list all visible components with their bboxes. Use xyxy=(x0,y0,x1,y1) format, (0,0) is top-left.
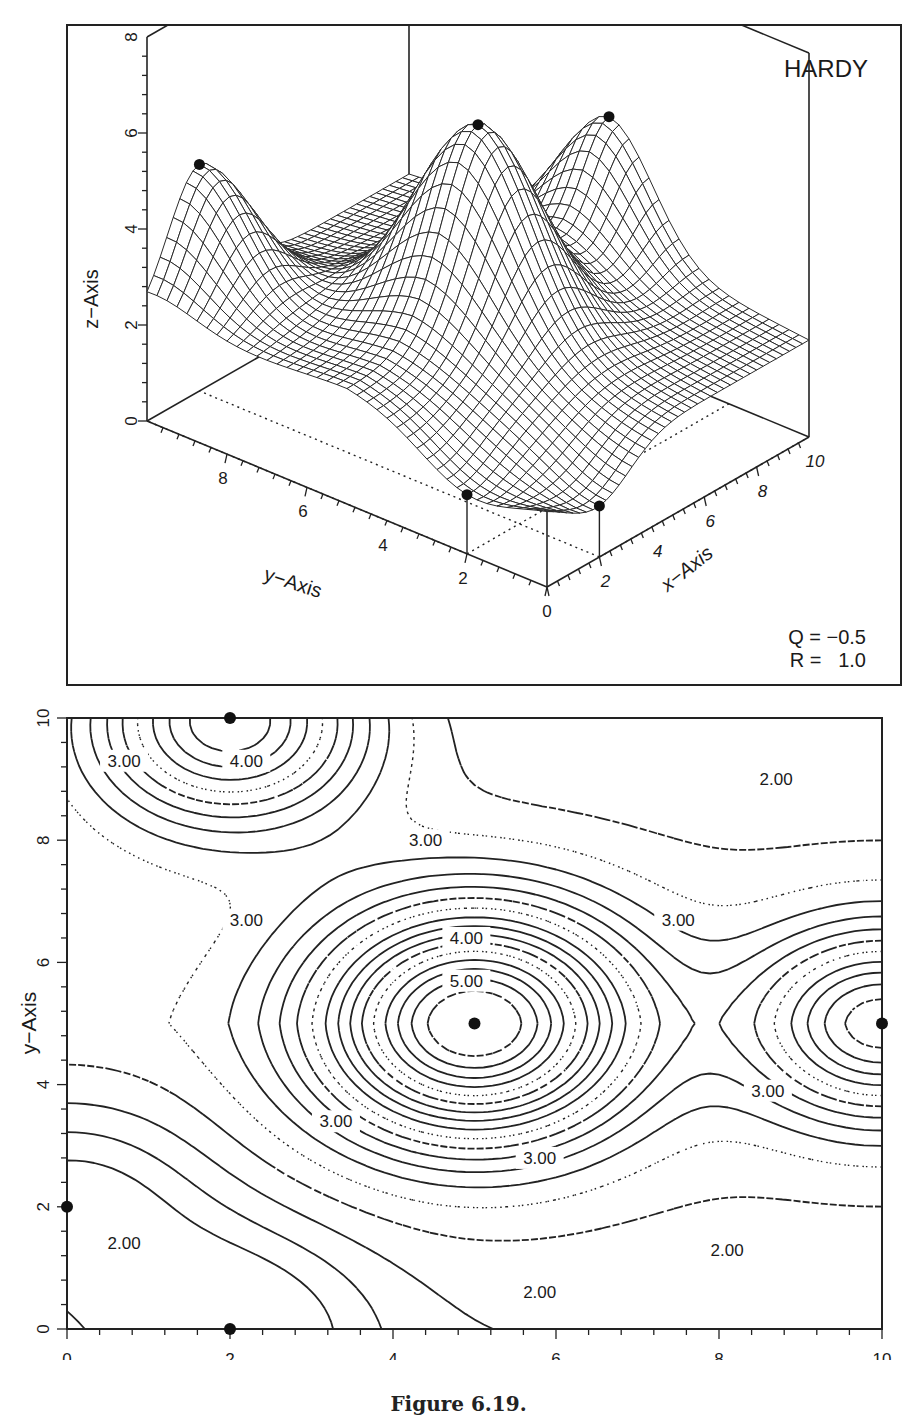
data-point-marker xyxy=(473,119,484,130)
contour-label: 4.00 xyxy=(450,929,483,948)
data-point-marker xyxy=(462,489,473,500)
surface-mesh xyxy=(147,117,809,514)
svg-text:8: 8 xyxy=(758,482,768,501)
contour-line-2 xyxy=(67,1103,493,1329)
y-tick-label: 8 xyxy=(34,835,53,844)
svg-text:2: 2 xyxy=(458,569,467,588)
x-axis-label: x−Axis xyxy=(656,542,717,597)
data-point-marker xyxy=(194,159,205,170)
contour-label: 3.00 xyxy=(409,831,442,850)
data-points xyxy=(61,712,888,1335)
svg-text:10: 10 xyxy=(806,452,825,471)
svg-text:6: 6 xyxy=(705,512,715,531)
y-tick-label: 4 xyxy=(34,1080,53,1089)
axis-ticks: 02468100246810 xyxy=(34,709,891,1360)
data-point-marker xyxy=(224,712,236,724)
y-tick-label: 0 xyxy=(34,1324,53,1333)
contour-label: 3.00 xyxy=(523,1149,556,1168)
y-tick-label: 10 xyxy=(34,709,53,728)
q-parameter-label: Q = −0.5 xyxy=(788,626,866,648)
svg-text:4: 4 xyxy=(653,542,662,561)
contour-line-4.75 xyxy=(362,943,882,1104)
x-tick-label: 10 xyxy=(873,1350,892,1360)
contour-label: 3.00 xyxy=(230,911,263,930)
contour-plot: 02468100246810 2.003.004.003.003.003.004… xyxy=(0,700,917,1360)
y-tick-label: 2 xyxy=(34,1202,53,1211)
x-tick-label: 0 xyxy=(62,1350,71,1360)
contour-label: 2.00 xyxy=(108,1234,141,1253)
y-tick-label: 6 xyxy=(34,958,53,967)
contour-label: 2.00 xyxy=(760,770,793,789)
contour-label: 2.00 xyxy=(523,1283,556,1302)
plot-title: HARDY xyxy=(784,55,868,82)
contour-label: 3.00 xyxy=(751,1082,784,1101)
svg-text:8: 8 xyxy=(218,469,227,488)
svg-text:2: 2 xyxy=(122,320,141,329)
x-tick-label: 2 xyxy=(225,1350,234,1360)
data-point-marker xyxy=(594,500,605,511)
y-axis-label: y−Axis xyxy=(17,992,40,1054)
contour-label: 4.00 xyxy=(230,752,263,771)
svg-text:6: 6 xyxy=(298,502,307,521)
svg-text:6: 6 xyxy=(122,128,141,137)
data-point-marker xyxy=(469,1018,481,1030)
x-tick-label: 4 xyxy=(388,1350,397,1360)
r-parameter-label: R = 1.0 xyxy=(790,649,866,671)
contour-label: 3.00 xyxy=(319,1112,352,1131)
data-point-marker xyxy=(876,1018,888,1030)
svg-text:4: 4 xyxy=(122,224,141,233)
data-point-marker xyxy=(61,1201,73,1213)
svg-text:8: 8 xyxy=(122,32,141,41)
svg-text:2: 2 xyxy=(600,572,611,591)
x-tick-label: 6 xyxy=(551,1350,560,1360)
svg-text:0: 0 xyxy=(542,602,551,621)
data-point-marker xyxy=(224,1323,236,1335)
svg-text:0: 0 xyxy=(122,416,141,425)
contour-label: 5.00 xyxy=(450,972,483,991)
z-axis-label: z−Axis xyxy=(80,269,102,328)
surface-plot-3d: HARDY 0246824680246810 z−Axis y−Axis x−A… xyxy=(66,24,902,686)
x-tick-label: 8 xyxy=(714,1350,723,1360)
y-axis-label: y−Axis xyxy=(261,563,324,602)
contour-line-2.5 xyxy=(67,718,882,1208)
contour-label: 2.00 xyxy=(711,1241,744,1260)
data-point-marker xyxy=(604,111,615,122)
contour-label: 3.00 xyxy=(108,752,141,771)
svg-text:4: 4 xyxy=(378,536,387,555)
figure-caption: Figure 6.19. xyxy=(0,1392,917,1416)
contour-label: 3.00 xyxy=(662,911,695,930)
